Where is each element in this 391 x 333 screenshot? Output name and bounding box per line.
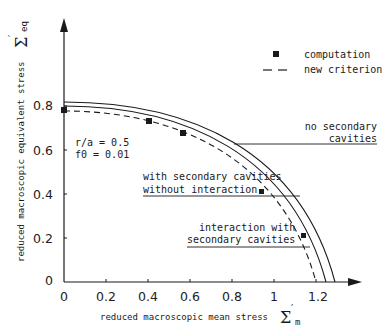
y-tick-0.4: 0.4 [33,187,53,202]
svg-text:reduced macroscopic equivalent: reduced macroscopic equivalent stress [16,62,26,262]
svg-text:secondary cavities: secondary cavities [187,234,295,245]
x-tick-0.2: 0.2 [96,289,116,304]
svg-text:′: ′ [291,303,294,314]
y-tick-0: 0 [45,273,53,288]
x-tick-0.8: 0.8 [222,289,242,304]
point-1 [146,118,152,124]
point-2 [180,130,186,136]
param-ra: r/a = 0.5 [75,137,129,148]
y-axis-title: reduced macroscopic equivalent stress Σ … [7,21,31,262]
annotation-without-interaction: with secondary cavities without interact… [143,171,300,196]
x-tick-0.6: 0.6 [180,289,200,304]
annotation-no-secondary: no secondary cavities [234,121,377,144]
x-tick-0: 0 [60,289,68,304]
chart-canvas: 0 0.2 0.4 0.6 0.8 1 1.2 0 0.2 0.4 0.6 0.… [0,0,391,333]
y-tick-labels: 0 0.2 0.4 0.6 0.8 [33,98,53,288]
point-3 [259,189,264,194]
y-axis-arrow-icon [60,18,68,32]
x-tick-1: 1 [270,289,278,304]
x-axis-title: reduced macroscopic mean stress Σ ′ m [100,303,300,327]
y-tick-0.2: 0.2 [33,231,53,246]
y-tick-0.6: 0.6 [33,143,53,158]
x-axis-arrow-icon [348,278,362,286]
svg-text:without interaction: without interaction [143,184,257,195]
x-tick-labels: 0 0.2 0.4 0.6 0.8 1 1.2 [60,289,328,304]
x-tick-0.4: 0.4 [138,289,158,304]
y-tick-0.8: 0.8 [33,98,53,113]
annotation-interaction: interaction with secondary cavities [187,222,310,247]
svg-text:with secondary cavities: with secondary cavities [143,171,281,182]
legend: computation new criterion [263,49,382,75]
param-f0: f0 = 0.01 [75,149,129,160]
point-4 [301,233,306,238]
svg-text:′: ′ [7,34,18,37]
svg-text:cavities: cavities [329,133,377,144]
svg-text:interaction with: interaction with [199,222,295,233]
svg-text:no secondary: no secondary [305,121,377,132]
point-0 [61,107,67,113]
x-tick-1.2: 1.2 [308,289,328,304]
svg-text:eq: eq [19,21,29,32]
svg-text:Σ: Σ [12,37,31,48]
legend-square-marker-icon [273,51,279,57]
svg-text:Σ: Σ [280,308,291,327]
svg-text:m: m [295,317,300,327]
legend-new-criterion: new criterion [304,64,382,75]
legend-computation: computation [304,49,370,60]
svg-text:reduced macroscopic mean stres: reduced macroscopic mean stress [100,312,268,322]
